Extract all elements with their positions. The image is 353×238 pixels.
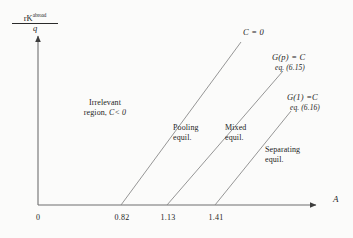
region-irrelevant-line1: Irrelevant (89, 98, 121, 107)
region-pooling-line1: Pooling (173, 123, 199, 132)
region-label-irrelevant: Irrelevant region, C< 0 (63, 98, 147, 118)
region-separating-line1: Separating (265, 145, 300, 154)
x-axis-label: A (333, 194, 339, 205)
region-label-pooling: Pooling equil. (173, 123, 217, 143)
region-separating-line2: equil. (265, 155, 284, 164)
y-axis-denominator: q (12, 24, 58, 34)
x-tick-0-82: 0.82 (107, 213, 137, 223)
x-tick-1-41: 1.41 (201, 213, 231, 223)
curve-equation-6-16: eq. (6.16) (290, 103, 320, 112)
region-mixed-line2: equil. (225, 133, 244, 142)
region-mixed-line1: Mixed (225, 123, 246, 132)
curve-label-gp-equals-c: G(p) = C (272, 52, 305, 62)
curve-label-c-equals-zero: C = 0 (243, 27, 264, 37)
plot-area (0, 0, 353, 238)
y-axis-numerator-superscript: abroad (33, 12, 47, 18)
region-pooling-line2: equil. (173, 133, 192, 142)
y-axis-label: rKabroad q (12, 13, 58, 34)
x-tick-1-13: 1.13 (153, 213, 183, 223)
x-tick-origin: 0 (31, 213, 45, 223)
figure-canvas: rKabroad q A 0 0.82 1.13 1.41 C = 0 G(p)… (0, 0, 353, 238)
curve-equation-6-15: eq. (6.15) (275, 63, 305, 72)
region-irrelevant-line2-condition: C< 0 (109, 108, 126, 117)
region-label-mixed: Mixed equil. (225, 123, 269, 143)
y-axis-numerator-base: rK (24, 13, 33, 23)
region-irrelevant-line2-prefix: region, (84, 108, 109, 117)
region-label-separating: Separating equil. (265, 145, 321, 165)
curve-label-g1-equals-c: G(1) =C (287, 92, 318, 102)
